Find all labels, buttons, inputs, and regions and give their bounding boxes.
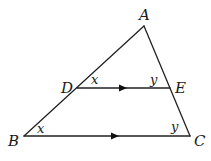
label-angle-abc: x bbox=[37, 121, 45, 136]
label-point-d: D bbox=[60, 79, 73, 97]
parallel-arrow-de-icon bbox=[119, 85, 127, 92]
label-point-a: A bbox=[137, 6, 150, 24]
label-angle-aed: y bbox=[149, 72, 158, 87]
parallel-arrow-bc-icon bbox=[111, 133, 119, 140]
triangle-diagram: A D E B C x y x y bbox=[0, 0, 211, 161]
label-angle-ade: x bbox=[91, 72, 99, 87]
side-ab bbox=[24, 26, 144, 136]
label-point-b: B bbox=[7, 132, 19, 150]
label-point-e: E bbox=[174, 79, 186, 97]
label-angle-acb: y bbox=[170, 119, 179, 134]
label-point-c: C bbox=[194, 132, 206, 150]
